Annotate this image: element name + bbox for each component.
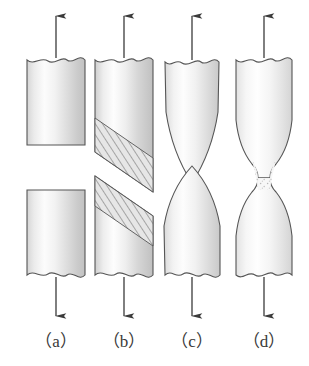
panel-label-c: （c）: [171, 332, 213, 351]
panel-a-upper-piece: [27, 58, 85, 145]
panel-label-b: （b）: [103, 332, 146, 351]
panel-label-d: （d）: [243, 332, 286, 351]
figure-canvas: （a） （b） （c） （d）: [0, 0, 309, 366]
panel-a-lower-piece: [27, 190, 85, 277]
panel-label-a: （a）: [35, 332, 77, 351]
fracture-types-figure: （a） （b） （c） （d）: [0, 0, 309, 366]
